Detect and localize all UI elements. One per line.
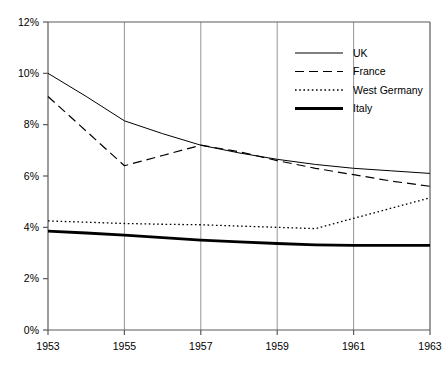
legend-label-italy: Italy: [353, 102, 373, 114]
y-tick-label: 4%: [24, 221, 39, 233]
x-tick-label: 1953: [36, 340, 60, 352]
legend-label-uk: UK: [353, 47, 368, 59]
x-tick-label: 1955: [113, 340, 137, 352]
legend-label-west-germany: West Germany: [353, 84, 424, 96]
line-chart: 0%2%4%6%8%10%12% 19531955195719591961196…: [0, 0, 448, 366]
x-tick-label: 1959: [266, 340, 290, 352]
y-tick-label: 10%: [18, 67, 39, 79]
y-tick-label: 0%: [24, 324, 39, 336]
y-tick-label: 8%: [24, 118, 39, 130]
y-tick-label: 2%: [24, 272, 39, 284]
x-tick-label: 1957: [189, 340, 213, 352]
x-axis-ticks: 195319551957195919611963: [36, 330, 442, 352]
y-tick-label: 6%: [24, 170, 39, 182]
y-axis-ticks: 0%2%4%6%8%10%12%: [18, 16, 48, 336]
y-tick-label: 12%: [18, 16, 39, 28]
chart-canvas: 0%2%4%6%8%10%12% 19531955195719591961196…: [0, 0, 448, 366]
x-tick-label: 1963: [418, 340, 442, 352]
x-tick-label: 1961: [342, 340, 366, 352]
legend-label-france: France: [353, 65, 386, 77]
